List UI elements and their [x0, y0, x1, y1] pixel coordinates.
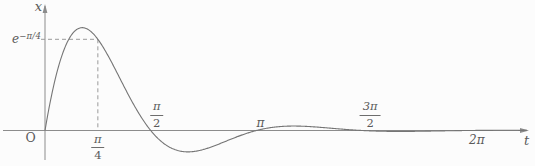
peak-value-label: e−π/4 — [0, 32, 41, 45]
damped-oscillation-figure: x t O e−π/4 π4π2π3π22π — [0, 0, 535, 166]
x-axis-label: t — [524, 134, 529, 147]
t-tick-label-1: π2 — [150, 101, 164, 129]
x-axis-arrowhead-icon — [43, 4, 48, 13]
t-tick-label-2: π — [256, 117, 264, 129]
t-tick-label-0: π4 — [91, 134, 105, 162]
origin-label: O — [24, 132, 37, 145]
curve — [45, 28, 527, 152]
t-tick-label-3: 3π2 — [360, 101, 381, 129]
plot-canvas — [0, 0, 535, 166]
y-axis-label: x — [0, 0, 42, 13]
peak-value-exponent: −π/4 — [19, 31, 41, 41]
tick-fraction: 3π2 — [360, 101, 381, 129]
tick-fraction: π2 — [150, 101, 164, 129]
tick-fraction: π4 — [91, 134, 105, 162]
t-tick-label-4: 2π — [469, 134, 485, 146]
